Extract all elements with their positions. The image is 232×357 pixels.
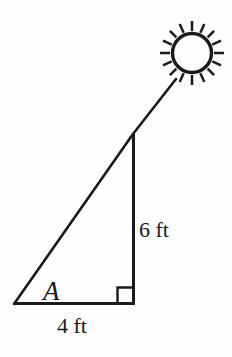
geometry-figure: A 6 ft 4 ft	[0, 0, 232, 357]
horizontal-side-label: 4 ft	[57, 315, 87, 337]
hypotenuse-line	[14, 134, 133, 304]
vertical-side-label: 6 ft	[139, 219, 169, 241]
right-angle-marker-icon	[118, 288, 135, 304]
light-ray-line	[133, 79, 176, 134]
sun-icon	[160, 21, 224, 85]
diagram-canvas	[0, 0, 232, 357]
angle-label-a: A	[43, 278, 60, 305]
